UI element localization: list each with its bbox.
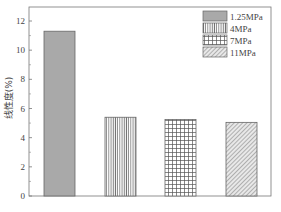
bar-chart: 024681012 线性度(%) 1.25MPa4MPa7MPa11MPa xyxy=(0,0,281,212)
bar-11mpa xyxy=(226,122,257,196)
bar-7mpa xyxy=(165,119,196,196)
y-axis: 024681012 xyxy=(16,16,32,201)
bar-1-25mpa xyxy=(44,31,75,196)
y-tick-label: 0 xyxy=(21,191,26,201)
y-tick-label: 8 xyxy=(21,74,26,84)
legend-label: 11MPa xyxy=(230,48,256,58)
legend-swatch xyxy=(203,35,227,45)
legend-label: 7MPa xyxy=(230,36,252,46)
legend-swatch xyxy=(203,23,227,33)
legend: 1.25MPa4MPa7MPa11MPa xyxy=(203,11,263,58)
y-tick-label: 2 xyxy=(21,162,26,172)
y-tick-label: 6 xyxy=(21,104,26,114)
y-tick-label: 4 xyxy=(21,133,26,143)
y-tick-label: 12 xyxy=(16,16,25,26)
legend-swatch xyxy=(203,11,227,21)
y-axis-label: 线性度(%) xyxy=(3,77,14,120)
legend-label: 1.25MPa xyxy=(230,12,263,22)
y-tick-label: 10 xyxy=(16,45,26,55)
bar-4mpa xyxy=(105,117,136,196)
legend-swatch xyxy=(203,47,227,57)
legend-label: 4MPa xyxy=(230,24,252,34)
